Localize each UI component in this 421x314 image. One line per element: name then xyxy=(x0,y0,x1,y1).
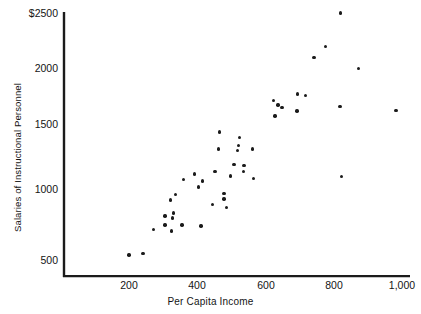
scatter-point xyxy=(232,163,235,166)
scatter-point xyxy=(218,130,221,133)
scatter-point xyxy=(171,216,174,219)
x-tick-label-1000: 1,000 xyxy=(377,279,421,291)
scatter-point xyxy=(170,229,173,232)
scatter-point xyxy=(338,105,341,108)
scatter-point xyxy=(222,192,225,195)
scatter-point xyxy=(273,114,276,117)
scatter-point xyxy=(163,223,166,226)
scatter-point xyxy=(211,203,214,206)
scatter-point xyxy=(296,92,299,95)
scatter-point xyxy=(172,211,175,214)
scatter-point xyxy=(180,223,183,226)
x-tick-label-800: 800 xyxy=(309,279,359,291)
scatter-point xyxy=(295,109,298,112)
scatter-point xyxy=(127,253,130,256)
scatter-point xyxy=(339,11,342,14)
scatter-point xyxy=(193,172,196,175)
scatter-chart: $2500 2000 1500 1000 500 200 400 600 800… xyxy=(0,0,421,314)
scatter-point xyxy=(141,252,144,255)
scatter-point xyxy=(312,56,315,59)
scatter-point xyxy=(201,179,204,182)
y-axis-title: Salaries of Instructional Personnel xyxy=(12,58,23,258)
scatter-point xyxy=(163,214,166,217)
y-tick-labels: $2500 2000 1500 1000 500 xyxy=(0,0,58,314)
y-tick-label-2500: $2500 xyxy=(6,7,58,19)
x-tick-label-200: 200 xyxy=(104,279,154,291)
x-tick-label-600: 600 xyxy=(241,279,291,291)
scatter-point xyxy=(197,185,200,188)
scatter-point xyxy=(199,224,202,227)
scatter-point xyxy=(394,109,397,112)
chart-axes xyxy=(0,0,421,314)
x-tick-label-400: 400 xyxy=(172,279,222,291)
x-axis-title: Per Capita Income xyxy=(0,296,421,307)
scatter-point xyxy=(280,106,283,109)
scatter-point xyxy=(251,147,254,150)
scatter-point xyxy=(217,147,220,150)
scatter-point xyxy=(222,197,225,200)
scatter-point xyxy=(242,164,245,167)
